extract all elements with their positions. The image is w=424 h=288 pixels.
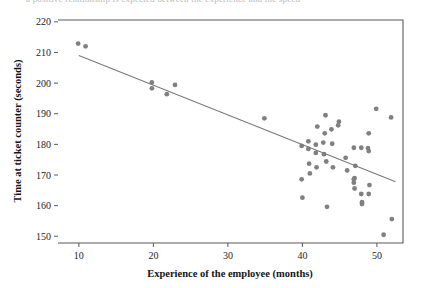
data-point: [306, 139, 311, 144]
y-tick-label: 150: [36, 231, 51, 242]
data-point: [314, 165, 319, 170]
chart-canvas: 150160170180190200210220 1020304050 Expe…: [0, 0, 424, 288]
x-axis-ticks: 1020304050: [74, 243, 382, 261]
data-point: [321, 140, 326, 145]
data-point: [351, 180, 356, 185]
data-point: [76, 41, 81, 46]
y-axis-title: Time at ticket counter (seconds): [12, 59, 24, 203]
data-point: [366, 192, 371, 197]
data-point: [330, 141, 335, 146]
data-point: [367, 183, 372, 188]
data-point: [299, 177, 304, 182]
data-point: [307, 161, 312, 166]
data-point: [352, 186, 357, 191]
data-points-group: [76, 41, 395, 237]
data-point: [300, 195, 305, 200]
data-point: [345, 168, 350, 173]
data-point: [313, 151, 318, 156]
y-tick-label: 180: [36, 139, 51, 150]
data-point: [366, 149, 371, 154]
y-tick-label: 220: [36, 16, 51, 27]
data-point: [323, 113, 328, 118]
y-axis-ticks: 150160170180190200210220: [36, 16, 58, 241]
data-point: [389, 115, 394, 120]
x-tick-label: 50: [372, 250, 382, 261]
x-tick-label: 30: [223, 250, 233, 261]
scatter-plot-figure: a positive relationship is expected betw…: [0, 0, 424, 288]
data-point: [389, 217, 394, 222]
data-point: [374, 106, 379, 111]
data-point: [352, 176, 357, 181]
data-point: [337, 119, 342, 124]
data-point: [359, 192, 364, 197]
x-tick-label: 40: [297, 250, 307, 261]
data-point: [359, 145, 364, 150]
data-point: [324, 159, 329, 164]
trend-line: [79, 56, 396, 182]
data-point: [381, 232, 386, 237]
data-point: [173, 83, 178, 88]
data-point: [331, 165, 336, 170]
x-tick-label: 20: [148, 250, 158, 261]
y-tick-label: 190: [36, 108, 51, 119]
y-tick-label: 160: [36, 200, 51, 211]
data-point: [149, 86, 154, 91]
data-point: [343, 155, 348, 160]
data-point: [366, 131, 371, 136]
x-tick-label: 10: [74, 250, 84, 261]
data-point: [315, 124, 320, 129]
data-point: [329, 127, 334, 132]
frame-outline: [58, 20, 403, 243]
data-point: [325, 204, 330, 209]
y-tick-label: 200: [36, 78, 51, 89]
data-point: [322, 131, 327, 136]
data-point: [83, 44, 88, 49]
plot-frame: [58, 20, 403, 243]
data-point: [313, 142, 318, 147]
y-tick-label: 170: [36, 170, 51, 181]
data-point: [262, 116, 267, 121]
data-point: [307, 171, 312, 176]
data-point: [164, 92, 169, 97]
y-tick-label: 210: [36, 47, 51, 58]
data-point: [360, 202, 365, 207]
data-point: [351, 145, 356, 150]
x-axis-title: Experience of the employee (months): [147, 268, 313, 280]
